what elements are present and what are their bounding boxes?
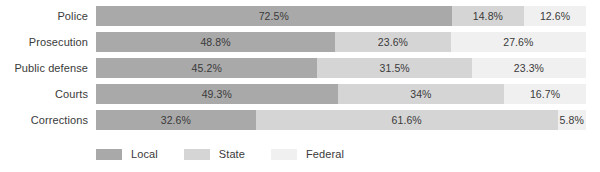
- chart-row: Police72.5%14.8%12.6%: [0, 6, 600, 26]
- legend-swatch-icon: [271, 149, 297, 160]
- bar-track: 72.5%14.8%12.6%: [96, 6, 586, 26]
- bar-segment-value: 45.2%: [192, 58, 222, 78]
- bar-segment-value: 12.6%: [540, 6, 570, 26]
- bar-segment-value: 23.6%: [378, 32, 408, 52]
- legend-item-local[interactable]: Local: [96, 147, 158, 161]
- bar-segment-value: 14.8%: [473, 6, 503, 26]
- legend-label: Federal: [306, 147, 344, 161]
- legend-label: Local: [131, 147, 158, 161]
- bar-segment-value: 16.7%: [530, 84, 560, 104]
- bar-segment-value: 27.6%: [503, 32, 533, 52]
- bar-segment-federal[interactable]: 12.6%: [524, 6, 586, 26]
- bar-segment-federal[interactable]: 23.3%: [472, 58, 586, 78]
- bar-segment-state[interactable]: 61.6%: [256, 110, 558, 130]
- legend-swatch-icon: [184, 149, 210, 160]
- bar-track: 32.6%61.6%5.8%: [96, 110, 586, 130]
- legend-swatch-icon: [96, 149, 122, 160]
- legend-item-federal[interactable]: Federal: [271, 147, 344, 161]
- bar-segment-value: 34%: [410, 84, 431, 104]
- bar-segment-value: 32.6%: [161, 110, 191, 130]
- bar-segment-local[interactable]: 45.2%: [96, 58, 317, 78]
- bar-segment-value: 31.5%: [380, 58, 410, 78]
- bar-segment-value: 72.5%: [259, 6, 289, 26]
- bar-segment-federal[interactable]: 5.8%: [558, 110, 586, 130]
- bar-segment-local[interactable]: 48.8%: [96, 32, 335, 52]
- row-category-label: Corrections: [0, 110, 88, 130]
- bar-segment-value: 48.8%: [200, 32, 230, 52]
- legend-item-state[interactable]: State: [184, 147, 245, 161]
- chart-row: Corrections32.6%61.6%5.8%: [0, 110, 600, 130]
- chart-legend: LocalStateFederal: [96, 145, 370, 163]
- stacked-bar-chart: Police72.5%14.8%12.6%Prosecution48.8%23.…: [0, 0, 600, 172]
- bar-track: 49.3%34%16.7%: [96, 84, 586, 104]
- bar-segment-state[interactable]: 34%: [338, 84, 505, 104]
- bar-segment-federal[interactable]: 16.7%: [504, 84, 586, 104]
- legend-label: State: [219, 147, 245, 161]
- bar-segment-local[interactable]: 72.5%: [96, 6, 452, 26]
- bar-segment-state[interactable]: 14.8%: [452, 6, 525, 26]
- row-category-label: Police: [0, 6, 88, 26]
- bar-segment-value: 23.3%: [514, 58, 544, 78]
- bar-track: 45.2%31.5%23.3%: [96, 58, 586, 78]
- bar-segment-value: 49.3%: [202, 84, 232, 104]
- bar-segment-state[interactable]: 31.5%: [317, 58, 471, 78]
- chart-row: Prosecution48.8%23.6%27.6%: [0, 32, 600, 52]
- bar-segment-value: 5.8%: [560, 110, 584, 130]
- bar-segment-state[interactable]: 23.6%: [335, 32, 451, 52]
- bar-segment-value: 61.6%: [392, 110, 422, 130]
- bar-segment-federal[interactable]: 27.6%: [451, 32, 586, 52]
- row-category-label: Public defense: [0, 58, 88, 78]
- row-category-label: Courts: [0, 84, 88, 104]
- bar-segment-local[interactable]: 49.3%: [96, 84, 338, 104]
- row-category-label: Prosecution: [0, 32, 88, 52]
- chart-row: Public defense45.2%31.5%23.3%: [0, 58, 600, 78]
- chart-plot-area: Police72.5%14.8%12.6%Prosecution48.8%23.…: [0, 6, 600, 136]
- chart-row: Courts49.3%34%16.7%: [0, 84, 600, 104]
- bar-track: 48.8%23.6%27.6%: [96, 32, 586, 52]
- bar-segment-local[interactable]: 32.6%: [96, 110, 256, 130]
